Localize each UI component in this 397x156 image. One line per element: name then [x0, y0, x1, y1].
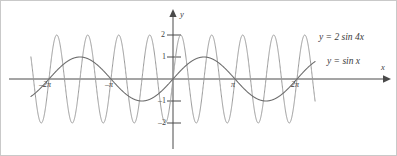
- y-tick-label-neg1: –1: [158, 97, 166, 105]
- chart-figure: y x 2 1 –1 –2 –2π –π π 2π y = 2 sin 4x y…: [0, 0, 397, 156]
- x-tick-label-neg-2pi: –2π: [39, 81, 51, 89]
- x-tick-label-pi: π: [231, 81, 235, 89]
- x-tick-label-neg-pi: –π: [105, 81, 113, 89]
- plot-canvas: [1, 1, 397, 156]
- legend-label-sinx: y = sin x: [327, 57, 360, 67]
- y-axis-arrowhead: [169, 9, 176, 17]
- y-tick-label-neg2: –2: [158, 119, 166, 127]
- x-axis-label: x: [381, 63, 385, 72]
- axis-group: [9, 9, 391, 149]
- y-axis-label: y: [180, 10, 184, 19]
- y-tick-label-1: 1: [162, 53, 166, 61]
- x-tick-label-2pi: 2π: [291, 81, 299, 89]
- y-tick-label-2: 2: [161, 31, 165, 39]
- legend-label-2sin4x: y = 2 sin 4x: [319, 33, 364, 43]
- x-axis-arrowhead: [383, 75, 391, 83]
